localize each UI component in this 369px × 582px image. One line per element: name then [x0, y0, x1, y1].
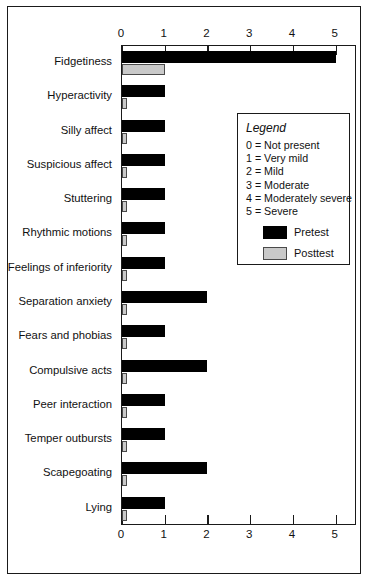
bar-pretest — [122, 120, 165, 132]
x-tick-label-top-0: 0 — [111, 27, 131, 39]
category-label: Peer interaction — [33, 398, 112, 410]
bar-posttest — [122, 441, 127, 452]
chart-figure: 012345 FidgetinessHyperactivitySilly aff… — [7, 6, 361, 574]
bar-posttest — [122, 167, 127, 178]
bar-pretest — [122, 85, 165, 97]
bar-pretest — [122, 394, 165, 406]
bar-posttest — [122, 338, 127, 349]
x-tick-label-top-3: 3 — [239, 27, 259, 39]
category-label: Scapegoating — [43, 466, 112, 478]
x-tick-bottom-2 — [207, 515, 208, 524]
x-tick-label-top-5: 5 — [325, 27, 345, 39]
x-tick-bottom-1 — [165, 515, 166, 524]
bar-posttest — [122, 373, 127, 384]
category-label: Lying — [85, 501, 112, 513]
bar-posttest — [122, 201, 127, 212]
category-label: Compulsive acts — [29, 364, 112, 376]
legend-scale-list: 0 = Not present1 = Very mild2 = Mild3 = … — [246, 139, 349, 218]
x-tick-label-bottom-2: 2 — [196, 528, 216, 540]
legend-label-pretest: Pretest — [294, 226, 329, 239]
bar-pretest — [122, 325, 165, 337]
legend-scale-item: 5 = Severe — [246, 205, 349, 218]
bar-pretest — [122, 188, 165, 200]
bar-posttest — [122, 475, 127, 486]
category-label: Silly affect — [61, 124, 112, 136]
legend-series-posttest: Posttest — [263, 247, 334, 260]
category-label: Temper outbursts — [25, 432, 112, 444]
category-label: Fidgetiness — [54, 55, 112, 67]
x-tick-bottom-5 — [336, 515, 337, 524]
legend-swatch-posttest — [263, 247, 287, 260]
category-label: Separation anxiety — [18, 295, 112, 307]
legend-title: Legend — [246, 121, 349, 135]
bar-posttest — [122, 304, 127, 315]
legend-scale-item: 1 = Very mild — [246, 152, 349, 165]
x-tick-bottom-3 — [250, 515, 251, 524]
x-tick-bottom-4 — [293, 515, 294, 524]
legend-scale-item: 3 = Moderate — [246, 179, 349, 192]
x-tick-label-bottom-0: 0 — [111, 528, 131, 540]
x-tick-label-top-4: 4 — [282, 27, 302, 39]
legend-label-posttest: Posttest — [294, 247, 334, 260]
bar-posttest — [122, 235, 127, 246]
category-label: Feelings of inferiority — [8, 261, 112, 273]
bar-pretest — [122, 51, 336, 63]
x-tick-label-top-2: 2 — [196, 27, 216, 39]
category-label: Hyperactivity — [47, 89, 112, 101]
x-tick-label-top-1: 1 — [154, 27, 174, 39]
bar-pretest — [122, 497, 165, 509]
category-label: Suspicious affect — [27, 158, 112, 170]
x-tick-label-bottom-5: 5 — [325, 528, 345, 540]
bar-posttest — [122, 98, 127, 109]
category-label: Fears and phobias — [18, 329, 112, 341]
category-label: Rhythmic motions — [22, 226, 112, 238]
legend-swatch-pretest — [263, 226, 287, 239]
x-tick-label-bottom-4: 4 — [282, 528, 302, 540]
bar-posttest — [122, 133, 127, 144]
bar-posttest — [122, 407, 127, 418]
bar-pretest — [122, 154, 165, 166]
legend-series-pretest: Pretest — [263, 226, 329, 239]
legend-scale-item: 4 = Moderately severe — [246, 192, 349, 205]
bar-pretest — [122, 462, 207, 474]
legend-scale-item: 2 = Mild — [246, 165, 349, 178]
bar-pretest — [122, 291, 207, 303]
category-label: Stuttering — [64, 192, 112, 204]
legend: Legend 0 = Not present1 = Very mild2 = M… — [237, 113, 350, 265]
x-tick-label-bottom-1: 1 — [154, 528, 174, 540]
bar-pretest — [122, 222, 165, 234]
bar-posttest — [122, 64, 165, 75]
bar-pretest — [122, 360, 207, 372]
bar-pretest — [122, 257, 165, 269]
x-tick-label-bottom-3: 3 — [239, 528, 259, 540]
legend-scale-item: 0 = Not present — [246, 139, 349, 152]
x-tick-top-5 — [336, 46, 337, 55]
bar-pretest — [122, 428, 165, 440]
bar-posttest — [122, 270, 127, 281]
bar-posttest — [122, 510, 127, 521]
